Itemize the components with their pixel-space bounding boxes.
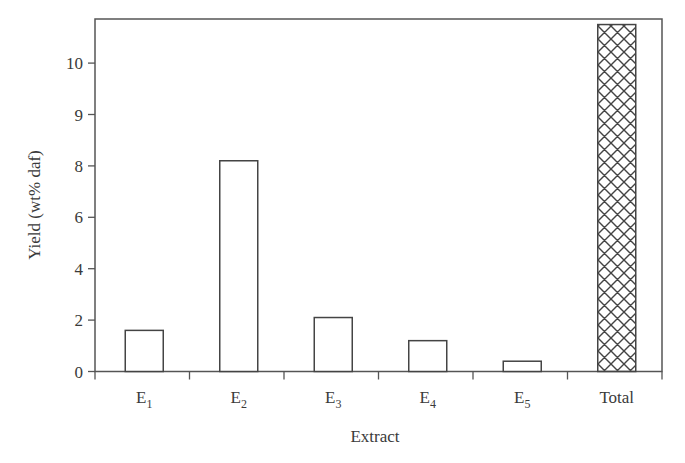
bars	[125, 25, 636, 372]
plot-frame	[95, 19, 662, 372]
x-axis-labels: E1E2E3E4E5Total	[136, 388, 634, 411]
x-tick-label: E3	[325, 388, 341, 411]
x-tick-label: E2	[231, 388, 247, 411]
bar-e3	[314, 318, 352, 372]
x-tick-label: E5	[514, 388, 530, 411]
y-tick-label: 4	[75, 260, 84, 279]
y-tick-label: 10	[66, 54, 83, 73]
bar-total	[598, 25, 636, 372]
y-axis-title: Yield (wt% daf)	[25, 150, 44, 260]
y-tick-label: 6	[75, 208, 84, 227]
bar-e5	[503, 361, 541, 371]
x-tick-label: E1	[136, 388, 152, 411]
y-tick-label: 2	[75, 311, 84, 330]
x-axis-ticks	[95, 372, 662, 380]
bar-e1	[125, 330, 163, 371]
x-tick-label: E4	[420, 388, 436, 411]
x-axis-title: Extract	[350, 427, 399, 446]
bar-e4	[409, 341, 447, 372]
y-tick-label: 9	[75, 106, 84, 125]
x-tick-label: Total	[599, 388, 634, 407]
bar-chart: 02468910 E1E2E3E4E5Total Extract Yield (…	[0, 0, 685, 463]
y-tick-label: 8	[75, 157, 84, 176]
bar-e2	[220, 161, 258, 372]
y-tick-label: 0	[75, 363, 84, 382]
y-axis: 02468910	[66, 54, 95, 381]
